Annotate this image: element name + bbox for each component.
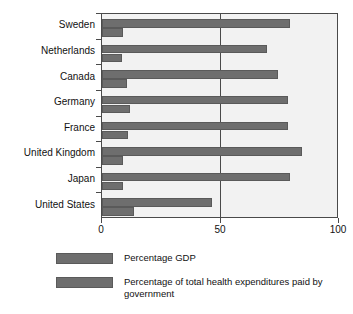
bar-government-germany <box>102 96 288 105</box>
bar-chart: SwedenNetherlandsCanadaGermanyFranceUnit… <box>0 0 353 314</box>
y-axis-tick-5 <box>96 141 102 142</box>
y-axis-label-sweden: Sweden <box>59 19 95 30</box>
y-axis-label-canada: Canada <box>60 71 95 82</box>
bar-gdp-canada <box>102 79 127 88</box>
legend-item-gdp: Percentage GDP <box>56 252 346 265</box>
chart-legend: Percentage GDP Percentage of total healt… <box>56 252 346 300</box>
bar-gdp-japan <box>102 182 123 191</box>
y-axis-label-france: France <box>64 122 95 133</box>
y-axis-tick-0 <box>96 13 102 14</box>
y-axis-label-united-states: United States <box>35 199 95 210</box>
plot-area <box>101 13 338 218</box>
x-axis-tick-0 <box>101 218 102 223</box>
legend-item-government: Percentage of total health expenditures … <box>56 276 346 289</box>
y-axis-label-united-kingdom: United Kingdom <box>24 147 95 158</box>
bar-government-canada <box>102 70 278 79</box>
bar-gdp-netherlands <box>102 54 122 63</box>
bar-government-sweden <box>102 19 290 28</box>
bar-government-japan <box>102 173 290 182</box>
bar-gdp-sweden <box>102 28 123 37</box>
x-axis-tick-label-50: 50 <box>214 224 225 236</box>
y-axis-tick-1 <box>96 39 102 40</box>
x-axis-tick-100 <box>338 218 339 223</box>
bar-gdp-united-states <box>102 207 134 216</box>
x-axis-tick-label-0: 0 <box>98 224 104 236</box>
bar-government-netherlands <box>102 45 267 54</box>
bar-gdp-france <box>102 131 128 140</box>
legend-label-gdp: Percentage GDP <box>124 252 344 264</box>
bar-government-united-kingdom <box>102 147 302 156</box>
y-axis-tick-6 <box>96 167 102 168</box>
y-axis-tick-4 <box>96 116 102 117</box>
y-axis-tick-2 <box>96 64 102 65</box>
legend-swatch-government <box>56 277 113 288</box>
bar-gdp-united-kingdom <box>102 156 123 165</box>
bar-government-united-states <box>102 198 212 207</box>
bar-government-france <box>102 122 288 131</box>
legend-swatch-gdp <box>56 253 113 264</box>
y-axis-tick-7 <box>96 192 102 193</box>
legend-label-government: Percentage of total health expenditures … <box>124 276 344 299</box>
x-axis-tick-label-100: 100 <box>330 224 347 236</box>
bar-gdp-germany <box>102 105 130 114</box>
y-axis-label-germany: Germany <box>54 96 95 107</box>
y-axis-label-japan: Japan <box>68 173 95 184</box>
y-axis-tick-3 <box>96 90 102 91</box>
x-axis-tick-50 <box>220 218 221 223</box>
y-axis-label-netherlands: Netherlands <box>41 45 95 56</box>
